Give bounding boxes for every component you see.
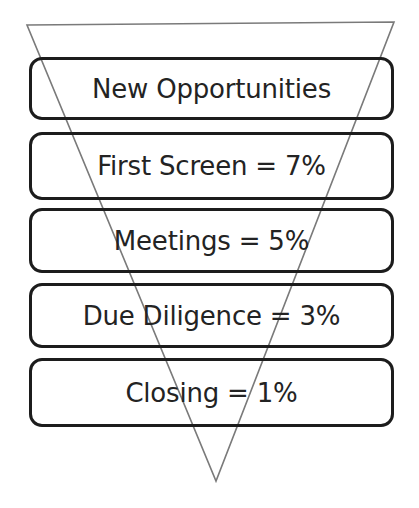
funnel-stage-due-diligence[interactable]: Due Diligence = 3%	[29, 283, 394, 348]
funnel-stage-meetings[interactable]: Meetings = 5%	[29, 208, 394, 273]
funnel-stage-list: New Opportunities First Screen = 7% Meet…	[0, 0, 419, 508]
funnel-stage-first-screen[interactable]: First Screen = 7%	[29, 132, 394, 200]
stage-label: Due Diligence = 3%	[83, 303, 341, 329]
funnel-stage-closing[interactable]: Closing = 1%	[29, 358, 394, 427]
stage-label: Meetings = 5%	[114, 228, 309, 254]
funnel-diagram: New Opportunities First Screen = 7% Meet…	[0, 0, 419, 508]
stage-label: New Opportunities	[92, 76, 331, 102]
funnel-stage-new-opportunities[interactable]: New Opportunities	[29, 57, 394, 120]
stage-label: Closing = 1%	[125, 380, 297, 406]
stage-label: First Screen = 7%	[97, 153, 326, 179]
